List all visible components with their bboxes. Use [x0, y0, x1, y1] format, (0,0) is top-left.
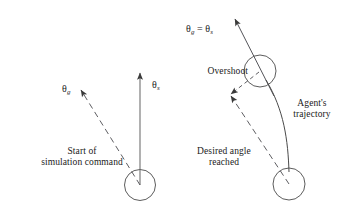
label-overshoot: Overshoot	[186, 66, 248, 77]
label-start-of-simulation-command: Start of simulation command	[20, 146, 144, 168]
label-theta-g-equals-theta-s: θg = θs	[186, 23, 213, 36]
label-desired-angle-reached: Desired angle reached	[182, 146, 266, 168]
upper-right-body-circle	[244, 55, 276, 87]
left-theta-g-arrow	[81, 90, 140, 185]
agent-trajectory-curve	[266, 80, 289, 172]
label-agents-trajectory: Agent's trajectory	[283, 98, 341, 120]
desired-angle-dashed-arrow	[231, 96, 289, 184]
diagram-canvas: θg θs θg = θs Overshoot Agent's trajecto…	[0, 0, 343, 221]
label-theta-s-left: θs	[152, 79, 160, 92]
label-theta-g-left: θg	[62, 83, 71, 96]
left-start-state-group	[81, 73, 156, 201]
